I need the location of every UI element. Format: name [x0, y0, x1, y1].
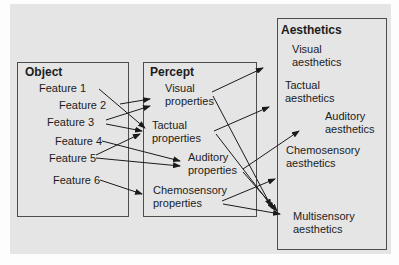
percept-box-title: Percept [150, 65, 194, 79]
feature-5-label: Feature 5 [49, 152, 96, 165]
feature-1-label: Feature 1 [39, 82, 86, 95]
figure-page: Object Feature 1 Feature 2 Feature 3 Fea… [0, 0, 399, 265]
visual-properties-label: Visual properties [165, 82, 214, 108]
tactual-aesthetics-label: Tactual aesthetics [285, 79, 335, 105]
chemosensory-aesthetics-label: Chemosensory aesthetics [286, 144, 360, 170]
chemosensory-properties-label: Chemosensory properties [153, 184, 227, 210]
tactual-properties-label: Tactual properties [152, 119, 201, 145]
auditory-properties-label: Auditory properties [188, 151, 237, 177]
feature-3-label: Feature 3 [47, 116, 94, 129]
object-box-title: Object [25, 65, 62, 79]
visual-aesthetics-label: Visual aesthetics [292, 43, 342, 69]
multisensory-aesthetics-label: Multisensory aesthetics [293, 210, 355, 236]
aesthetics-box-title: Aesthetics [281, 23, 342, 37]
feature-4-label: Feature 4 [55, 135, 102, 148]
feature-6-label: Feature 6 [53, 174, 100, 187]
auditory-aesthetics-label: Auditory aesthetics [325, 110, 375, 136]
feature-2-label: Feature 2 [59, 99, 106, 112]
